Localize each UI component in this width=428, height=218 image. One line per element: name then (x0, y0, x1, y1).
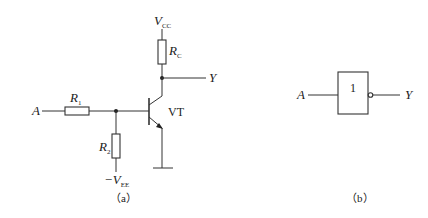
resistor-r2 (112, 134, 120, 158)
figure-b-not-gate: A 1 Y （b） (296, 72, 414, 204)
gate-output-y-label: Y (405, 87, 414, 102)
circuit-diagram: VCC RC Y VT A R1 (0, 0, 428, 218)
vcc-label: VCC (154, 13, 172, 30)
input-a-label: A (31, 103, 40, 118)
resistor-r1 (65, 107, 89, 115)
r2-label: R2 (98, 139, 111, 156)
caption-b: （b） (346, 192, 374, 204)
collector-diagonal (149, 96, 162, 105)
rc-label: RC (168, 43, 182, 60)
vee-label: −VEE (104, 172, 129, 189)
gate-input-a-label: A (296, 87, 305, 102)
transistor-vt-label: VT (168, 105, 185, 119)
figure-a-transistor-inverter: VCC RC Y VT A R1 (31, 13, 218, 204)
r1-label: R1 (69, 90, 82, 107)
inversion-bubble-icon (368, 93, 373, 98)
output-y-label: Y (209, 70, 218, 85)
caption-a: （a） (110, 192, 137, 204)
resistor-rc (158, 40, 166, 64)
gate-symbol-label: 1 (350, 81, 356, 95)
